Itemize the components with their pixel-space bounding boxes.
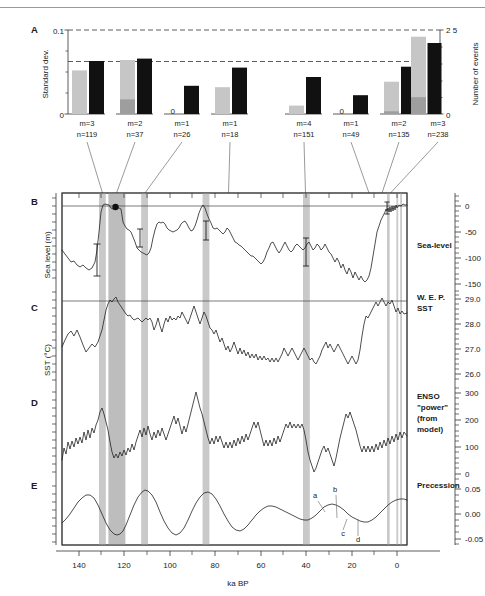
panel-b-tick-100: -100	[465, 254, 482, 263]
panel-e-right-axis	[455, 483, 461, 545]
group-1-m: m=3	[80, 119, 95, 128]
panel-a-left-axis-title: Standard dev.	[41, 49, 50, 98]
shared-left-axis	[52, 193, 56, 545]
panel-d-right-minor-ticks	[455, 388, 459, 479]
x-tick-40: 40	[302, 561, 311, 570]
panel-b: B Sea level (m)	[31, 193, 482, 289]
panel-d-right-label-line1: ENSO	[417, 392, 440, 401]
panel-a: A 0.1 0 2 5 0 Standard dev. Number of ev…	[31, 24, 480, 193]
panel-c: C SST (°C) W. E. P. SST	[31, 287, 481, 385]
panel-b-tick-150: -150	[465, 280, 482, 289]
x-axis-title: ka BP	[227, 579, 248, 588]
panel-b-right-axis	[455, 193, 461, 287]
annotation-d: d	[356, 535, 360, 544]
panel-c-tick-29: 29.0	[465, 295, 481, 304]
panel-d: D ENSO "power" (from model)	[31, 385, 479, 483]
panel-e-tick-pos: 0.05	[465, 485, 481, 494]
annotation-a: a	[313, 491, 318, 500]
panel-c-tick-27: 27.0	[465, 345, 481, 354]
panel-d-tick-100: 100	[465, 443, 479, 452]
panel-c-tick-28: 28.0	[465, 320, 481, 329]
panel-d-right-label-line3: (from	[417, 414, 437, 423]
event-bands	[99, 193, 402, 545]
panel-d-right-label-line4: model)	[417, 425, 444, 434]
group-1-n: n=119	[77, 130, 98, 139]
x-axis: 140 120 100 80 60 40 20 0 ka BP	[56, 551, 440, 588]
sea-level-error-bars	[94, 202, 390, 276]
panel-c-label: C	[31, 302, 38, 313]
annotation-c: c	[341, 529, 345, 538]
group-6-m: m=1	[344, 119, 359, 128]
panel-a-right-axis-title: Number of events	[471, 42, 480, 105]
x-tick-120: 120	[117, 561, 131, 570]
panel-a-ytick-bottom: 0	[60, 111, 65, 120]
group-4-m: m=1	[223, 119, 238, 128]
x-tick-20: 20	[348, 561, 357, 570]
panel-d-tick-300: 300	[465, 389, 479, 398]
panel-a-bar-group-1	[72, 61, 104, 114]
panel-b-right-label-line1: Sea-level	[417, 241, 452, 250]
group-3-n: n=26	[174, 130, 191, 139]
panel-a-right-tick-top: 2 5	[446, 26, 458, 35]
panel-b-top-ticks	[79, 193, 397, 198]
panel-d-tick-200: 200	[465, 416, 479, 425]
figure-svg: A 0.1 0 2 5 0 Standard dev. Number of ev…	[0, 0, 485, 596]
top-rule	[0, 7, 485, 8]
panel-e-tick-zero: 0.00	[465, 510, 481, 519]
panel-b-tick-50: -50	[465, 228, 477, 237]
panel-d-right-label-line2: "power"	[417, 403, 448, 412]
panel-c-tick-26: 26.0	[465, 370, 481, 379]
panel-b-axis-title: Sea level (m)	[43, 231, 52, 278]
group-7-m: m=2	[392, 119, 407, 128]
sea-level-event-dot	[112, 204, 118, 210]
panel-a-connectors	[87, 142, 438, 193]
x-tick-0: 0	[395, 561, 400, 570]
x-tick-140: 140	[72, 561, 86, 570]
group-2-m: m=2	[128, 119, 143, 128]
panel-a-zero-label-2: 0	[340, 107, 345, 116]
panel-a-bar-group-6: 0	[340, 95, 368, 116]
panel-a-label: A	[31, 24, 38, 35]
panel-e-tick-neg: -0.05	[465, 535, 484, 544]
panel-a-bar-group-3: 0	[171, 86, 199, 116]
panel-a-right-tick-bottom: 0	[446, 111, 451, 120]
group-3-m: m=1	[175, 119, 190, 128]
panel-a-group-captions: m=3 n=119 m=2 n=37 m=1 n=26 m=1 n=18 m=4…	[77, 119, 449, 139]
panel-e: E a b c d Precession	[31, 480, 484, 545]
group-4-n: n=18	[222, 130, 239, 139]
annotation-b: b	[333, 485, 337, 494]
x-tick-80: 80	[211, 561, 220, 570]
group-6-n: n=49	[343, 130, 360, 139]
panel-a-bar-group-8	[411, 37, 442, 114]
panel-a-bar-group-2	[120, 59, 152, 114]
group-5-m: m=4	[297, 119, 312, 128]
panel-e-right-minor-ticks	[455, 485, 459, 544]
panel-c-axis-title: SST (°C)	[43, 344, 52, 376]
x-axis-minor-ticks	[101, 551, 374, 555]
panel-b-tick-0: 0	[465, 202, 470, 211]
panel-c-right-label-line2: SST	[417, 304, 433, 313]
timeseries-frame	[62, 193, 407, 545]
panel-a-bar-group-4	[215, 68, 247, 114]
panel-c-right-label-line1: W. E. P.	[417, 293, 445, 302]
panel-a-zero-label-1: 0	[171, 107, 176, 116]
group-5-n: n=151	[293, 130, 314, 139]
panel-a-ytick-top: 0.1	[53, 27, 65, 36]
left-axis-minor-ticks	[52, 198, 56, 542]
panel-c-right-axis	[455, 287, 461, 385]
panel-d-label: D	[31, 397, 38, 408]
group-8-m: m=3	[431, 119, 446, 128]
panel-e-right-label: Precession	[417, 481, 460, 490]
panel-e-label: E	[31, 480, 37, 491]
panel-b-right-minor-ticks	[455, 196, 459, 279]
x-tick-60: 60	[257, 561, 266, 570]
figure-root: A 0.1 0 2 5 0 Standard dev. Number of ev…	[0, 0, 485, 596]
group-7-n: n=135	[388, 130, 409, 139]
group-8-n: n=238	[427, 130, 448, 139]
group-2-n: n=37	[127, 130, 144, 139]
x-tick-100: 100	[163, 561, 177, 570]
precession-annotations: a b c d	[313, 485, 360, 544]
panel-d-tick-0: 0	[465, 470, 470, 479]
panel-b-label: B	[31, 196, 38, 207]
panel-c-right-minor-ticks	[455, 291, 459, 379]
